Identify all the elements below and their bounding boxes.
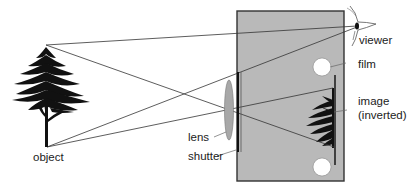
label-viewer: viewer [359,34,392,46]
camera-diagram: object lens shutter viewer film image (i… [0,0,407,191]
camera-body [237,11,344,181]
film-roll-top [313,58,331,76]
label-object: object [33,151,64,163]
tree-object-icon [12,47,90,147]
label-image-inverted: (inverted) [358,109,407,121]
lens-icon [225,80,234,140]
label-lens: lens [188,131,209,143]
label-film: film [358,58,376,70]
label-shutter: shutter [188,150,223,162]
film-roll-bottom [313,158,331,176]
label-image: image [358,95,389,107]
